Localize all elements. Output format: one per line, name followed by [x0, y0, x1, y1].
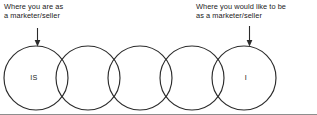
- annotation-right-line1: Where you would like to be: [196, 2, 286, 11]
- annotation-left: Where you are as a marketer/seller: [4, 2, 63, 20]
- annotation-left-line1: Where you are as: [4, 2, 63, 11]
- annotation-right: Where you would like to be as a marketer…: [196, 2, 286, 20]
- annotation-left-line2: a marketer/seller: [4, 11, 63, 20]
- baseline-rule: [0, 114, 317, 115]
- annotation-right-line2: as a marketer/seller: [196, 11, 286, 20]
- circle-4: [160, 46, 224, 110]
- diagram-figure: Where you are as a marketer/seller Where…: [0, 0, 317, 115]
- circle-label-is: IS: [30, 73, 37, 82]
- circle-label-i: I: [245, 73, 247, 82]
- circle-2: [56, 46, 120, 110]
- circle-chain: [0, 42, 317, 115]
- circle-3: [108, 46, 172, 110]
